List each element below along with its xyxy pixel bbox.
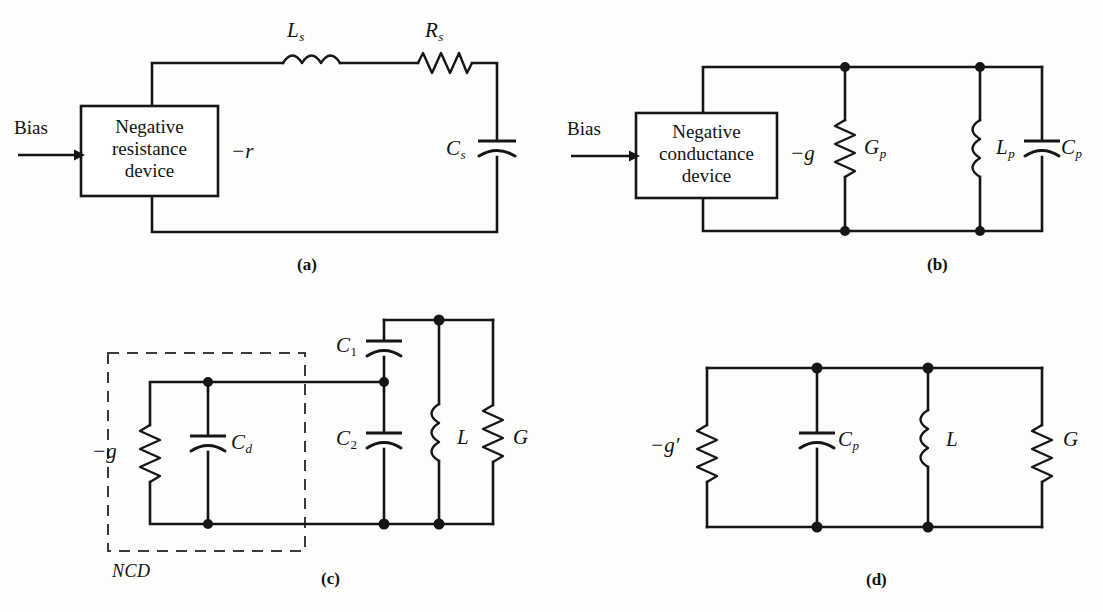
box-a-line-3: device	[81, 160, 218, 182]
box-a-line-1: Negative	[81, 116, 218, 138]
label-cp-b: Cp	[1061, 137, 1082, 160]
inductor-lp-symbol	[973, 120, 981, 177]
label-cs: Cs	[446, 138, 466, 161]
label-bias-a: Bias	[14, 118, 48, 137]
label-neg-g-c: −g	[92, 441, 117, 462]
caption-d: (d)	[866, 570, 887, 590]
caption-a: (a)	[297, 255, 317, 275]
node-c-cd-bot	[203, 519, 213, 529]
label-cp-d: Cp	[838, 429, 859, 452]
node-c-c1c2-junction	[379, 377, 389, 387]
label-neg-r: −r	[231, 141, 253, 162]
capacitor-c1-bottom-plate	[367, 351, 401, 357]
box-a-line-2: resistance	[81, 138, 218, 160]
node-d-bot-2	[923, 522, 934, 533]
node-d-top-2	[923, 363, 934, 374]
capacitor-cp-bottom-plate-d	[800, 443, 834, 449]
label-neg-g-prime: −g′	[650, 435, 679, 456]
label-cd: Cd	[231, 432, 252, 455]
label-c2: C2	[336, 428, 357, 451]
panel-d-circuit	[697, 363, 1052, 533]
label-neg-g-b: −g	[790, 143, 815, 164]
label-rs: Rs	[425, 20, 443, 43]
negative-resistance-device-text: Negative resistance device	[81, 116, 218, 182]
node-b-top-2	[975, 62, 985, 72]
negative-conductance-device-text: Negative conductance device	[636, 121, 777, 187]
resistor-neg-g-prime-symbol	[697, 425, 717, 482]
label-l-d: L	[946, 429, 958, 450]
label-ls: Ls	[287, 20, 304, 43]
label-c1: C1	[336, 335, 357, 358]
resistor-rs-symbol	[418, 53, 472, 73]
resistor-gp-symbol	[835, 120, 855, 177]
node-b-bot-2	[975, 226, 985, 236]
box-b-line-2: conductance	[636, 143, 777, 165]
label-lp: Lp	[996, 137, 1015, 160]
label-gp: Gp	[864, 137, 886, 160]
label-l-c: L	[457, 427, 469, 448]
capacitor-cd-bottom-plate	[191, 446, 225, 452]
box-b-line-1: Negative	[636, 121, 777, 143]
capacitor-c2-bottom-plate	[367, 443, 401, 449]
figure-canvas: Ls Rs Cs −r Bias Negative resistance dev…	[0, 0, 1103, 612]
box-b-line-3: device	[636, 165, 777, 187]
node-b-bot-1	[840, 226, 850, 236]
inductor-ls-symbol	[283, 56, 340, 64]
capacitor-cp-bottom-plate-b	[1025, 151, 1059, 157]
label-bias-b: Bias	[567, 119, 601, 138]
resistor-g-symbol-d	[1032, 425, 1052, 482]
resistor-neg-g-symbol-c	[140, 425, 160, 482]
capacitor-cs-bottom-plate	[479, 151, 515, 157]
node-b-top-1	[840, 62, 850, 72]
node-d-top-1	[812, 363, 823, 374]
circuit-svg	[0, 0, 1103, 612]
node-d-bot-1	[812, 522, 823, 533]
node-c-cd-top	[203, 377, 213, 387]
node-c-tank-top	[434, 315, 445, 326]
node-c-l-bot	[434, 519, 445, 530]
inductor-l-symbol-c	[432, 404, 440, 461]
label-ncd: NCD	[112, 562, 151, 580]
caption-b: (b)	[927, 255, 948, 275]
inductor-l-symbol-d	[921, 410, 929, 467]
label-g-c: G	[513, 427, 528, 448]
panel-c-circuit	[108, 315, 503, 552]
caption-c: (c)	[321, 569, 340, 589]
resistor-g-symbol-c	[483, 405, 503, 462]
label-g-d: G	[1063, 429, 1078, 450]
node-c-c2-bot	[379, 519, 390, 530]
